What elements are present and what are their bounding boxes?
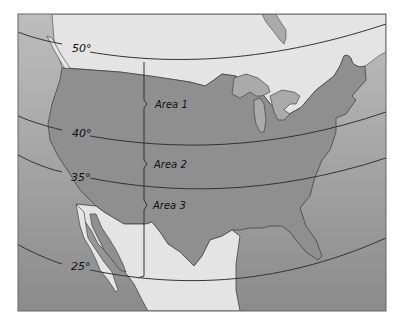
- area-label-3: Area 3: [152, 200, 186, 211]
- lat-label-25: 25°: [71, 260, 91, 273]
- area-label-1: Area 1: [154, 99, 188, 110]
- area-label-2: Area 2: [153, 159, 187, 170]
- map: 50° 40° 35° 25° Area 1 Area 2 Area 3: [0, 0, 409, 329]
- lat-label-50: 50°: [72, 42, 92, 55]
- lat-label-40: 40°: [72, 127, 92, 140]
- lat-label-35: 35°: [71, 171, 91, 184]
